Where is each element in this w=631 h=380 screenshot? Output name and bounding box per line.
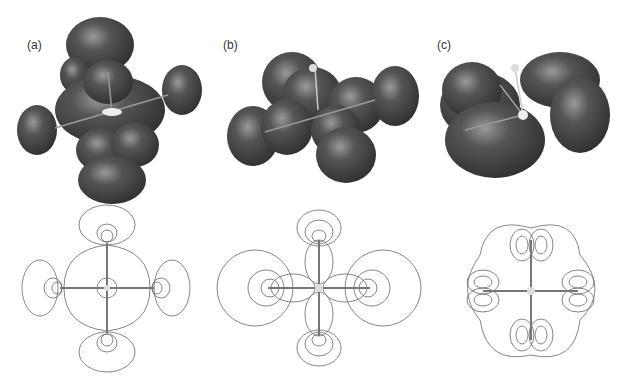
figure-canvas xyxy=(0,0,631,380)
isosurface-c xyxy=(440,52,610,178)
contour-plot-b xyxy=(217,210,421,366)
contour-plot-c xyxy=(467,225,595,357)
isosurface-a xyxy=(17,17,202,204)
contour-plot-a xyxy=(22,205,190,372)
isosurface-b xyxy=(227,52,419,183)
